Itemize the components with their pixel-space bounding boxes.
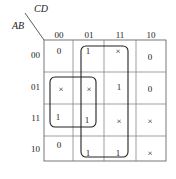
- cell: 1: [81, 46, 95, 56]
- cell: 1: [80, 115, 94, 125]
- cell: ×: [82, 84, 96, 94]
- group-columns-01-11: [81, 46, 128, 157]
- col-header: 10: [136, 30, 166, 40]
- cell: 0: [143, 52, 157, 62]
- col-header: 11: [105, 30, 135, 40]
- row-header: 01: [24, 82, 40, 92]
- cell: ×: [112, 116, 126, 126]
- cell: 0: [52, 140, 66, 150]
- cell: ×: [54, 84, 68, 94]
- cell: 0: [52, 46, 66, 56]
- cell: ×: [143, 148, 157, 158]
- row-header: 10: [24, 144, 40, 154]
- cell: 1: [111, 148, 125, 158]
- col-header: 00: [44, 30, 74, 40]
- cell: ×: [111, 46, 125, 56]
- cell: ×: [143, 116, 157, 126]
- cell: 1: [51, 112, 65, 122]
- cell: 0: [143, 84, 157, 94]
- cell: 1: [112, 82, 126, 92]
- col-header: 01: [74, 30, 104, 40]
- row-header: 00: [24, 50, 40, 60]
- cell: 1: [81, 148, 95, 158]
- row-header: 11: [24, 113, 40, 123]
